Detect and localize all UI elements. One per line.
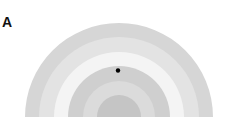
concentric-semicircle-diagram: [0, 0, 228, 121]
position-marker-dot: [116, 68, 120, 72]
